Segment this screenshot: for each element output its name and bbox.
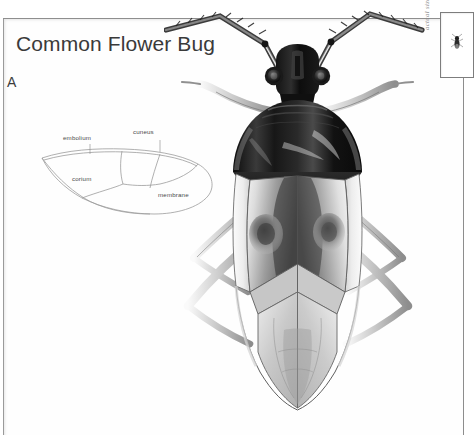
antenna-left (166, 12, 281, 74)
diagram-label-cuneus: cuneus (133, 128, 154, 135)
head (265, 44, 330, 104)
panel-letter-a: A (7, 74, 16, 90)
actual-size-inset (440, 12, 474, 78)
page-right-rule (463, 19, 464, 435)
antenna-right (314, 11, 422, 74)
diagram-label-corium: corium (72, 175, 91, 182)
pronotum (233, 100, 362, 172)
hemelytron-diagram: embolium cuneus corium membrane (20, 122, 225, 220)
tiny-bug-icon (450, 32, 464, 52)
actual-size-caption: actual size (423, 0, 430, 30)
scanned-book-page: Common Flower Bug (0, 0, 476, 435)
diagram-label-embolium: embolium (63, 134, 91, 141)
diagram-label-membrane: membrane (158, 191, 189, 198)
